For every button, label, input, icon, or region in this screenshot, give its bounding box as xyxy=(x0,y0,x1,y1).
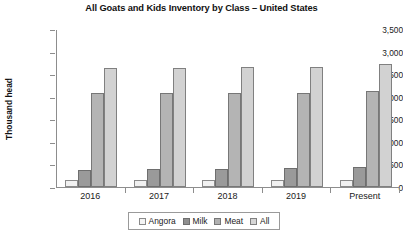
bar-angora-present[interactable] xyxy=(340,180,353,187)
bar-angora-2017[interactable] xyxy=(134,180,147,187)
y-tick-mark xyxy=(50,143,55,144)
bar-group xyxy=(194,29,263,187)
y-tick-mark xyxy=(50,75,55,76)
legend-item-angora[interactable]: Angora xyxy=(139,216,176,226)
legend-label-meat: Meat xyxy=(224,216,243,226)
bar-all-2017[interactable] xyxy=(173,68,186,187)
chart-title: All Goats and Kids Inventory by Class – … xyxy=(0,3,403,13)
bar-meat-present[interactable] xyxy=(366,91,379,187)
bar-milk-2017[interactable] xyxy=(147,169,160,187)
bar-milk-2019[interactable] xyxy=(284,168,297,187)
bar-all-2019[interactable] xyxy=(310,67,323,187)
bar-all-2016[interactable] xyxy=(104,68,117,187)
bar-group xyxy=(57,29,126,187)
bar-angora-2016[interactable] xyxy=(65,180,78,187)
bar-milk-2016[interactable] xyxy=(78,170,91,187)
legend-swatch-milk xyxy=(183,218,190,225)
y-tick-mark xyxy=(50,98,55,99)
legend-item-meat[interactable]: Meat xyxy=(214,216,243,226)
legend-label-milk: Milk xyxy=(193,216,208,226)
bar-meat-2016[interactable] xyxy=(91,93,104,187)
legend-label-all: All xyxy=(260,216,269,226)
legend-label-angora: Angora xyxy=(149,216,176,226)
plot-area xyxy=(56,30,399,188)
y-axis-label: Thousand head xyxy=(2,30,16,188)
y-axis-label-text: Thousand head xyxy=(4,78,14,140)
x-tick-label-2016: 2016 xyxy=(56,191,125,201)
bar-milk-present[interactable] xyxy=(353,167,366,187)
bar-group xyxy=(126,29,195,187)
y-tick-mark xyxy=(50,188,55,189)
x-tick-label-2019: 2019 xyxy=(262,191,331,201)
x-tick-label-2018: 2018 xyxy=(193,191,262,201)
bar-meat-2018[interactable] xyxy=(228,93,241,187)
bar-group xyxy=(263,29,332,187)
y-tick-mark xyxy=(50,165,55,166)
legend-swatch-meat xyxy=(214,218,221,225)
bar-group xyxy=(331,29,400,187)
bar-angora-2019[interactable] xyxy=(271,180,284,187)
chart-legend: Angora Milk Meat All xyxy=(128,212,280,230)
bar-all-present[interactable] xyxy=(379,64,392,187)
y-tick-mark xyxy=(50,120,55,121)
bar-meat-2019[interactable] xyxy=(297,93,310,187)
y-tick-mark xyxy=(50,30,55,31)
bar-milk-2018[interactable] xyxy=(215,169,228,187)
x-tick-label-2017: 2017 xyxy=(125,191,194,201)
bar-angora-2018[interactable] xyxy=(202,180,215,187)
bar-all-2018[interactable] xyxy=(241,67,254,187)
legend-item-all[interactable]: All xyxy=(250,216,269,226)
bar-meat-2017[interactable] xyxy=(160,93,173,187)
y-tick-mark xyxy=(50,53,55,54)
x-tick-mark xyxy=(399,188,400,193)
x-tick-label-present: Present xyxy=(330,191,399,201)
legend-swatch-all xyxy=(250,218,257,225)
bar-chart: All Goats and Kids Inventory by Class – … xyxy=(0,0,403,239)
legend-swatch-angora xyxy=(139,218,146,225)
legend-item-milk[interactable]: Milk xyxy=(183,216,208,226)
